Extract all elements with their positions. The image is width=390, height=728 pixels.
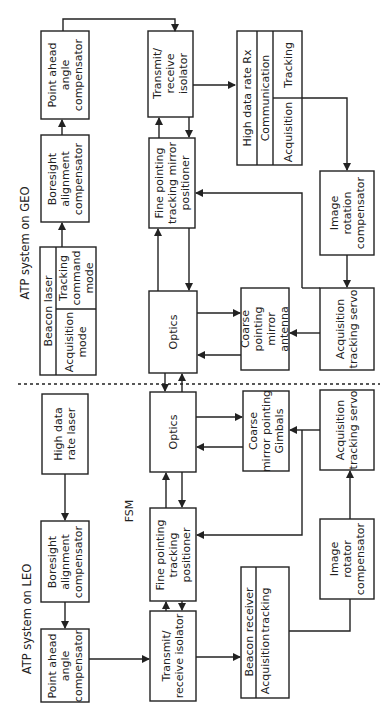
leo-optics: Optics [163, 392, 183, 472]
leo-image-rotator-compensator: Image rotator compensator [323, 519, 371, 599]
geo-acquisition-mode: Acquisition mode [56, 309, 96, 375]
leo-acquisition: Acquisition [257, 631, 273, 697]
fsm-label: FSM [122, 496, 136, 526]
leo-high-data-rate-laser: High data rate laser [48, 394, 82, 474]
geo-fine-pointing-mirror-positioner: Fine pointing tracking mirror positioner [149, 138, 195, 228]
geo-tracking: Tracking [280, 32, 296, 99]
leo-beacon-receiver: Beacon receiver [241, 567, 257, 698]
leo-coarse-mirror-gimbals: Coarse mirror pointing Gimbals [241, 388, 291, 474]
geo-acquisition-tracking-servo: Acquisition tracking servo [327, 288, 367, 370]
leo-tracking: tracking [257, 580, 273, 640]
geo-coarse-pointing-mirror-antenna: Coarse pointing mirror antenna [240, 288, 290, 370]
geo-beacon-laser: Beacon laser [40, 247, 56, 375]
geo-high-data-rate-rx: High data rate Rx [239, 31, 255, 165]
leo-boresight-compensator: Boresight alignment compensator [41, 522, 89, 603]
leo-point-ahead-compensator: Point ahead angle compensator [41, 630, 89, 703]
geo-optics: Optics [163, 291, 183, 373]
geo-boresight-compensator: Boresight alignment compensator [41, 136, 89, 223]
geo-acquisition: Acquisition [280, 99, 296, 166]
title-leo: ATP system on LEO [19, 559, 35, 679]
geo-transmit-receive-isolator: Transmit/ receive isolator [148, 31, 193, 117]
geo-image-rotation-compensator: Image rotation compensator [323, 171, 371, 255]
leo-acquisition-tracking-servo: Acquisition tracking servo [327, 390, 367, 470]
leo-fine-pointing-positioner: Fine pointing tracking positioner [150, 509, 196, 602]
leo-transmit-receive-isolator: Transmit/ receive isolator [156, 611, 190, 701]
geo-tracking-command-mode: Tracking command mode [56, 247, 96, 309]
geo-point-ahead-compensator: Point ahead angle compensator [41, 31, 89, 119]
title-geo: ATP system on GEO [17, 183, 33, 303]
geo-communication: Communication [257, 31, 273, 165]
